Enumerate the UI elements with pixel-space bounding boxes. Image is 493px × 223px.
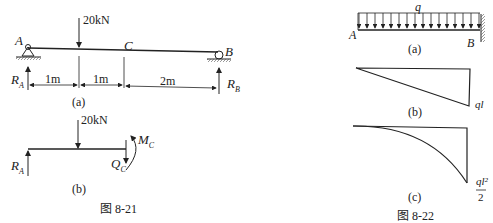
figure-caption-8-21: 图 8-21 (100, 199, 137, 217)
figure-caption-8-22: 图 8-22 (397, 206, 434, 223)
moment-value-denominator: 2 (478, 191, 484, 203)
caption-8-22b: (b) (408, 105, 422, 120)
caption-8-22c: (c) (408, 190, 421, 205)
fig-8-22a-cantilever (358, 13, 485, 42)
dim-label-3: 2m (160, 74, 175, 89)
caption-8-22a: (a) (408, 42, 421, 57)
point-a-label-22: A (349, 28, 356, 43)
shear-label: QC (111, 156, 126, 174)
shear-value-label: ql (475, 98, 484, 110)
caption-8-21a: (a) (72, 95, 85, 110)
reaction-a-label-b: RA (11, 158, 24, 176)
fixed-wall-icon (481, 14, 485, 42)
point-c-label: C (124, 38, 133, 54)
moment-label: MC (138, 132, 154, 150)
point-b-label: B (225, 44, 233, 60)
moment-arc-icon (126, 136, 136, 170)
distributed-load-label: q (415, 0, 421, 15)
caption-8-21b: (b) (72, 182, 86, 197)
load-label-b: 20kN (81, 113, 108, 128)
reaction-b-label: RB (227, 76, 240, 94)
dim-label-2: 1m (93, 72, 108, 87)
fig-8-22c-moment-diagram (353, 126, 486, 190)
moment-value-numerator: ql² (476, 175, 488, 187)
dim-label-1: 1m (45, 72, 60, 87)
distributed-load-arrows (359, 13, 479, 28)
point-a-label: A (15, 33, 23, 49)
load-label-a: 20kN (83, 13, 110, 28)
fig-8-22b-shear-diagram (356, 68, 470, 106)
point-b-label-22: B (467, 36, 474, 51)
reaction-a-label: RA (11, 72, 24, 90)
